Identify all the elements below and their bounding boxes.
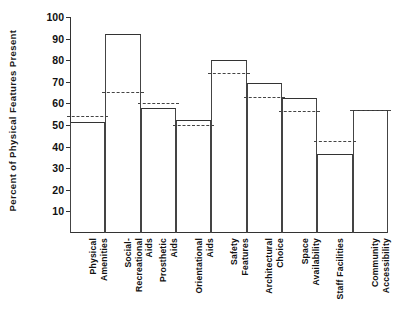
reference-dashed-line [279,111,320,112]
reference-dashed-line [350,110,391,111]
x-axis-tick-label-line: Architectural [264,238,275,294]
x-axis-tick-label-line: Prosthetic [158,238,169,282]
x-axis-tick-label: Staff Facilities [317,234,352,316]
x-axis-tick-label-line: Physical [88,238,99,281]
x-axis-tick-label-line: Community [370,238,381,293]
y-axis-tick-label: 60 [40,97,64,109]
x-axis-tick-label-text: CommunityAccessibility [370,238,391,293]
x-axis-tick-label: SpaceAvailability [282,234,317,316]
bar [282,98,317,233]
x-axis-tick-label-line: Space [300,238,311,285]
bar [317,154,352,233]
x-axis-tick-label: ProstheticAids [141,234,176,316]
bar-chart: Percent of Physical Features Present 100… [0,0,408,316]
y-axis-tick-mark [66,60,70,61]
bar [211,60,246,233]
y-axis-tick-mark [66,82,70,83]
bar [353,110,388,233]
y-axis-tick-mark [66,39,70,40]
reference-dashed-line [244,97,285,98]
y-axis-tick-label: 30 [40,162,64,174]
x-axis-tick-label-text: Staff Facilities [335,238,346,299]
reference-dashed-line [314,141,355,142]
bar [105,34,140,233]
x-axis-tick-label: PhysicalAmenities [70,234,105,316]
y-axis-tick-mark [66,103,70,104]
y-axis-title-text: Percent of Physical Features Present [8,29,19,211]
x-axis-tick-label: CommunityAccessibility [353,234,388,316]
reference-dashed-line [67,116,108,117]
bar [70,122,105,233]
reference-dashed-line [102,92,143,93]
x-axis-tick-label-line: Social- [123,238,134,292]
y-axis-tick-mark [66,17,70,18]
plot-area [70,17,388,233]
x-axis-tick-label-line: Safety [229,238,240,275]
x-axis-tick-label: OrientationalAids [176,234,211,316]
reference-dashed-line [173,125,214,126]
y-axis-tick-label: 40 [40,141,64,153]
y-axis-tick-label: 100 [40,11,64,23]
x-axis-tick-label: SafetyFeatures [211,234,246,316]
x-axis-tick-label: ArchitecturalChoice [247,234,282,316]
y-axis-tick-label: 90 [40,33,64,45]
x-axis-tick-label-line: Accessibility [381,238,392,293]
y-axis-tick-label: 10 [40,205,64,217]
x-axis-tick-label-line: Orientational [194,238,205,294]
x-axis-tick-label-line: Staff Facilities [335,238,346,299]
bar [141,108,176,233]
reference-dashed-line [138,103,179,104]
x-axis-tick-label: Social-RecreationalAids [105,234,140,316]
y-axis-title: Percent of Physical Features Present [0,0,26,240]
y-axis-tick-label: 80 [40,54,64,66]
x-axis-tick-labels: PhysicalAmenitiesSocial-RecreationalAids… [70,234,388,316]
y-axis-tick-label: 50 [40,119,64,131]
reference-dashed-line [208,73,249,74]
y-axis-tick-label: 20 [40,184,64,196]
y-axis-tick-label: 70 [40,76,64,88]
bar [247,83,282,233]
bar [176,120,211,233]
y-axis-tick-labels: 100908070605040302010 [36,0,64,316]
